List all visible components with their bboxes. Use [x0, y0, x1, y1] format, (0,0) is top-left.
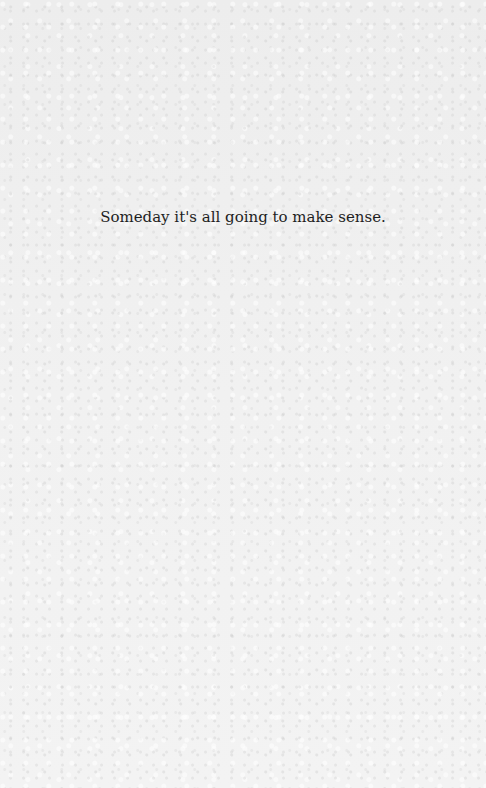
- epigraph-text: Someday it's all going to make sense.: [0, 206, 486, 228]
- reader-page: Someday it's all going to make sense.: [0, 0, 486, 788]
